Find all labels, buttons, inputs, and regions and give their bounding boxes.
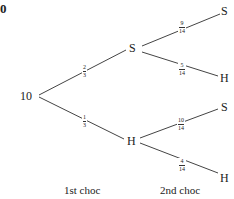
denominator: 14 (179, 28, 185, 34)
numerator: 4 (181, 158, 184, 164)
denominator: 14 (179, 70, 185, 76)
numerator: 2 (83, 64, 86, 70)
denominator: 14 (179, 166, 185, 172)
stage-label-second: 2nd choc (160, 185, 200, 196)
denominator: 3 (83, 72, 86, 78)
node-first-s: S (129, 42, 136, 54)
prob-s-s: 9 14 (178, 20, 186, 34)
leaf-s-s: S (221, 5, 228, 17)
denominator: 14 (178, 125, 184, 131)
tree-branches (0, 0, 234, 199)
prob-first-h: 1 3 (82, 114, 87, 128)
numerator: 5 (181, 62, 184, 68)
node-first-h: H (127, 135, 136, 147)
leaf-s-h: H (220, 72, 229, 84)
numerator: 10 (178, 117, 184, 123)
denominator: 3 (83, 122, 86, 128)
prob-first-s: 2 3 (82, 64, 87, 78)
leaf-h-h: H (220, 172, 229, 184)
prob-h-s: 10 14 (177, 117, 185, 131)
root-node: 10 (20, 90, 32, 102)
numerator: 9 (181, 20, 184, 26)
corner-text: 0 (0, 2, 7, 15)
prob-s-h: 5 14 (178, 62, 186, 76)
numerator: 1 (83, 114, 86, 120)
leaf-h-s: S (221, 101, 228, 113)
prob-h-h: 4 14 (178, 158, 186, 172)
stage-label-first: 1st choc (64, 185, 100, 196)
